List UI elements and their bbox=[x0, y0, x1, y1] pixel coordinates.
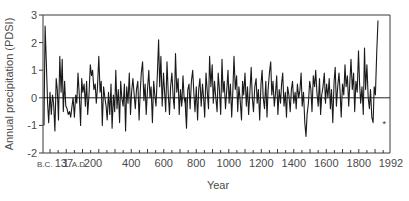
y-tick-label: 0 bbox=[31, 92, 37, 104]
data-series: * bbox=[43, 21, 390, 137]
x-tick-label: 200 bbox=[84, 157, 102, 169]
x-tick-label: 1600 bbox=[314, 157, 338, 169]
pdsi-chart: 3210-1-2 B.C. 1371 A.D.20040060080010001… bbox=[0, 0, 409, 201]
x-tick-labels: B.C. 1371 A.D.20040060080010001200140016… bbox=[37, 149, 403, 169]
x-tick-label: 600 bbox=[155, 157, 173, 169]
y-tick-label: -1 bbox=[27, 119, 37, 131]
x-tick-label: 1000 bbox=[217, 157, 241, 169]
y-tick-label: 1 bbox=[31, 64, 37, 76]
y-tick-label: 3 bbox=[31, 9, 37, 21]
x-tick-label: 1400 bbox=[282, 157, 306, 169]
x-axis-title: Year bbox=[207, 179, 230, 191]
x-tick-label: 1200 bbox=[249, 157, 273, 169]
y-tick-label: 2 bbox=[31, 37, 37, 49]
pdsi-line bbox=[44, 21, 378, 137]
y-tick-label: -2 bbox=[27, 147, 37, 159]
y-axis-title: Annual precipitation (PDSI) bbox=[3, 18, 15, 151]
x-tick-label: 400 bbox=[122, 157, 140, 169]
annotation-marker: * bbox=[382, 119, 386, 129]
x-tick-label: 1800 bbox=[347, 157, 371, 169]
x-tick-label: 1992 bbox=[379, 157, 403, 169]
bc-prefix: B.C. bbox=[37, 160, 55, 169]
y-tick-labels: 3210-1-2 bbox=[27, 9, 43, 159]
x-tick-label: 800 bbox=[187, 157, 205, 169]
